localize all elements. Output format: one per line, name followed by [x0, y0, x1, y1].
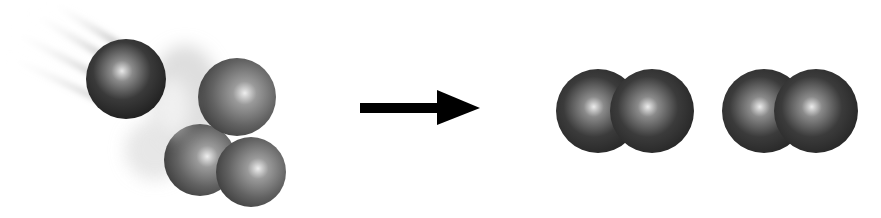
molecule-atom: [216, 137, 286, 207]
product-atom: [774, 69, 858, 153]
product-molecule-1: [556, 69, 694, 153]
molecule-atom: [198, 58, 276, 136]
product-molecule-2: [722, 69, 858, 153]
product-atom: [610, 69, 694, 153]
incoming-atom: [86, 39, 166, 119]
right-arrow-icon: [360, 90, 480, 125]
reaction-diagram: [0, 0, 881, 218]
